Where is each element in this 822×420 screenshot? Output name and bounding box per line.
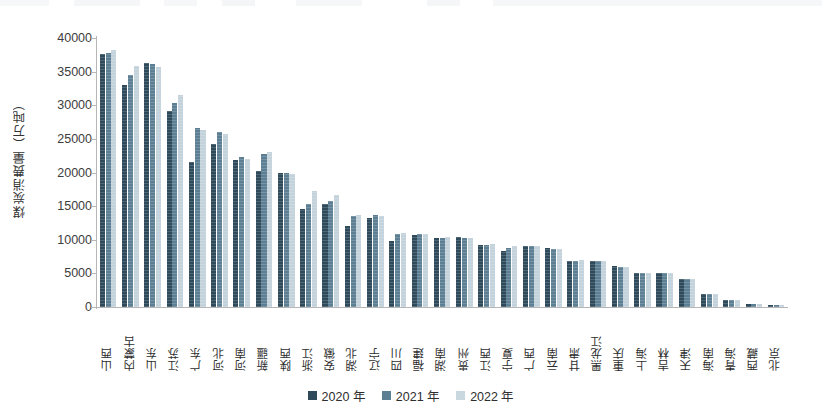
bar	[306, 204, 311, 307]
y-axis-tick-mark	[91, 206, 96, 207]
bar	[217, 132, 222, 307]
bar	[684, 279, 689, 307]
bar-group	[164, 38, 186, 307]
bar	[167, 111, 172, 307]
bar	[729, 300, 734, 307]
bar-group	[720, 38, 742, 307]
bar	[284, 173, 289, 308]
bar	[656, 273, 661, 307]
legend-label: 2020 年	[322, 386, 366, 405]
bar	[334, 195, 339, 307]
legend-label: 2022 年	[470, 386, 514, 405]
x-axis-category-label-text: 湖北	[347, 311, 359, 371]
bar	[774, 305, 779, 307]
bar	[490, 244, 495, 307]
y-axis-tick-mark	[91, 72, 96, 73]
y-axis-tick-mark	[91, 240, 96, 241]
bar	[545, 248, 550, 307]
y-axis-title: 煤炭消费量（万吨）	[14, 96, 36, 218]
legend-label: 2021 年	[396, 386, 440, 405]
bar	[579, 260, 584, 307]
x-axis-category-label-text: 青海	[726, 311, 738, 371]
bar-group	[342, 38, 364, 307]
bar	[646, 273, 651, 307]
bar	[261, 154, 266, 307]
x-axis-category-label: 内蒙古	[119, 311, 141, 371]
bar	[679, 279, 684, 307]
bar	[122, 85, 127, 307]
y-axis-tick-mark	[91, 139, 96, 140]
x-axis-category-label-text: 四川	[392, 311, 404, 371]
x-axis-category-label: 湖北	[342, 311, 364, 371]
bar	[412, 235, 417, 307]
bar-group	[498, 38, 520, 307]
legend-color-swatch	[456, 391, 465, 400]
y-axis-tick-label: 10000	[40, 233, 92, 247]
bar	[668, 273, 673, 307]
y-axis-tick-label: 40000	[40, 31, 92, 45]
x-axis-category-label-text: 江西	[481, 311, 493, 371]
bar	[501, 251, 506, 307]
bar	[300, 209, 305, 307]
bar	[512, 246, 517, 307]
bar	[612, 266, 617, 307]
bar	[211, 144, 216, 307]
bar	[351, 216, 356, 307]
bar-group	[409, 38, 431, 307]
bar-group	[565, 38, 587, 307]
x-axis-category-label: 浙江	[297, 311, 319, 371]
bar	[573, 261, 578, 307]
x-axis-line	[96, 307, 788, 308]
bar	[484, 245, 489, 307]
bar	[328, 201, 333, 307]
plot-area	[97, 38, 787, 307]
bar	[551, 249, 556, 308]
x-axis-category-label-text: 吉林	[659, 311, 671, 371]
legend-item[interactable]: 2022 年	[456, 386, 514, 405]
chart-legend: 2020 年2021 年2022 年	[0, 386, 822, 405]
x-axis-category-label-text: 天津	[681, 311, 693, 371]
x-axis-category-label: 山西	[97, 311, 119, 371]
bar-group	[231, 38, 253, 307]
bar	[156, 67, 161, 307]
bar	[417, 234, 422, 307]
bar	[640, 273, 645, 307]
bar	[172, 103, 177, 307]
bar-group	[297, 38, 319, 307]
bar	[395, 234, 400, 307]
bar	[312, 191, 317, 307]
bar	[200, 130, 205, 307]
x-axis-category-label: 福建	[409, 311, 431, 371]
x-axis-category-label: 吉林	[654, 311, 676, 371]
bar	[144, 63, 149, 307]
x-axis-category-label-text: 黑龙江	[592, 311, 604, 371]
legend-item[interactable]: 2020 年	[308, 386, 366, 405]
x-axis-category-label: 安徽	[320, 311, 342, 371]
x-axis-category-label-text: 江苏	[169, 311, 181, 371]
x-axis-category-label: 陕西	[275, 311, 297, 371]
x-axis-category-label: 宁夏	[498, 311, 520, 371]
y-axis-tick-label: 0	[40, 300, 92, 314]
bar	[345, 226, 350, 307]
legend-color-swatch	[382, 391, 391, 400]
bar-group	[676, 38, 698, 307]
bar	[239, 157, 244, 307]
y-axis-tick-label: 35000	[40, 65, 92, 79]
y-axis-tick-mark	[91, 105, 96, 106]
x-axis-category-label: 山东	[142, 311, 164, 371]
x-axis-category-label-text: 贵州	[459, 311, 471, 371]
legend-item[interactable]: 2021 年	[382, 386, 440, 405]
x-axis-category-label: 广东	[186, 311, 208, 371]
x-axis-category-label: 重庆	[609, 311, 631, 371]
bar-group	[275, 38, 297, 307]
bar	[322, 204, 327, 307]
x-axis-category-label-text: 浙江	[303, 311, 315, 371]
y-axis-tick-mark	[91, 173, 96, 174]
bar-group	[97, 38, 119, 307]
bar-group	[453, 38, 475, 307]
x-axis-category-label-text: 湖南	[436, 311, 448, 371]
bar	[111, 50, 116, 307]
x-axis-category-label: 上海	[631, 311, 653, 371]
bar-group	[320, 38, 342, 307]
x-axis-category-label: 新疆	[253, 311, 275, 371]
